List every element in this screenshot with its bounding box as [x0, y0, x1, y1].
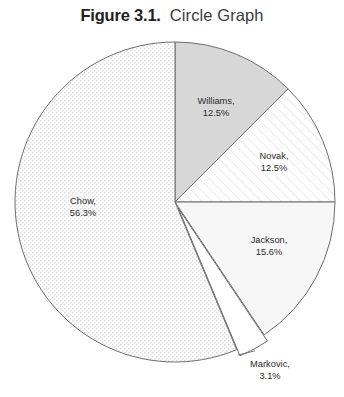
- pie-chart: Williams,12.5%Novak,12.5%Jackson,15.6%Ma…: [0, 0, 344, 397]
- pie-slice-layer: [15, 42, 335, 362]
- pie-chart-svg: Williams,12.5%Novak,12.5%Jackson,15.6%Ma…: [0, 0, 344, 397]
- pie-label-markovic: Markovic,3.1%: [250, 359, 290, 381]
- figure-root: Figure 3.1.Circle Graph Williams,12.5%No…: [0, 0, 344, 397]
